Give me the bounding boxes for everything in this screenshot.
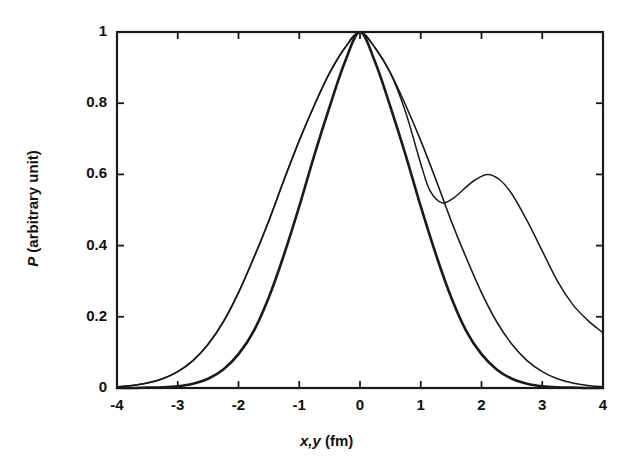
y-tick-label: 0 bbox=[55, 378, 107, 395]
x-axis-title-symbol: x,y bbox=[300, 432, 321, 449]
y-axis-title-symbol: P bbox=[24, 257, 41, 267]
series-bimodal-curve bbox=[117, 32, 603, 387]
curves-group bbox=[117, 32, 603, 388]
x-axis-title: x,y (fm) bbox=[300, 432, 353, 449]
series-wide-gaussian bbox=[117, 32, 603, 387]
x-tick-label: 1 bbox=[396, 396, 446, 413]
x-tick-label: -1 bbox=[274, 396, 324, 413]
y-tick-label: 0.2 bbox=[55, 307, 107, 324]
y-tick-label: 1 bbox=[55, 22, 107, 39]
x-tick-label: 3 bbox=[517, 396, 567, 413]
axes-frame bbox=[117, 32, 603, 388]
x-tick-label: 2 bbox=[457, 396, 507, 413]
x-tick-label: 0 bbox=[335, 396, 385, 413]
x-tick-label: 4 bbox=[578, 396, 628, 413]
x-axis-title-unit: (fm) bbox=[321, 432, 354, 449]
y-axis-title-wrapper: P (arbitrary unit) bbox=[0, 0, 60, 420]
chart-figure: P (arbitrary unit) x,y (fm) -4-3-2-10123… bbox=[0, 0, 639, 471]
y-tick-label: 0.6 bbox=[55, 164, 107, 181]
y-axis-title: P (arbitrary unit) bbox=[24, 89, 41, 329]
y-tick-label: 0.8 bbox=[55, 93, 107, 110]
tick-marks bbox=[117, 32, 603, 388]
y-tick-label: 0.4 bbox=[55, 236, 107, 253]
x-tick-label: -2 bbox=[214, 396, 264, 413]
x-tick-label: -4 bbox=[92, 396, 142, 413]
y-axis-title-unit: (arbitrary unit) bbox=[24, 150, 41, 257]
x-tick-label: -3 bbox=[153, 396, 203, 413]
series-narrow-gaussian bbox=[117, 32, 603, 388]
plot-frame bbox=[117, 32, 603, 388]
